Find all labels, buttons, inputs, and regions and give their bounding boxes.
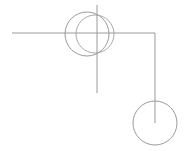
drawing-canvas [0, 0, 190, 151]
figure-svg [0, 0, 190, 151]
canvas-background [0, 0, 190, 151]
